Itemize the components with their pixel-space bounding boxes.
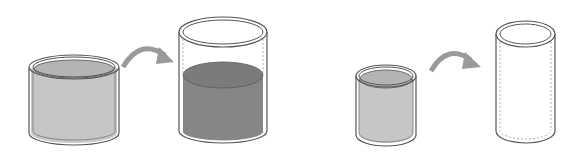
narrow-short-container — [356, 65, 416, 146]
tall-wide-container — [179, 17, 267, 143]
pour-arrow-1 — [123, 47, 174, 67]
pour-arrow-2 — [431, 52, 481, 71]
tall-narrow-container — [496, 21, 555, 143]
wide-short-container — [29, 55, 119, 145]
diagram-stage — [0, 0, 582, 157]
